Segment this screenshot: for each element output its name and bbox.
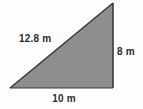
hypotenuse-length-label: 12.8 m (19, 33, 51, 45)
triangle-figure: 12.8 m 8 m 10 m (0, 0, 143, 109)
vertical-leg-length-label: 8 m (117, 46, 135, 58)
base-leg-length-label: 10 m (0, 93, 128, 105)
